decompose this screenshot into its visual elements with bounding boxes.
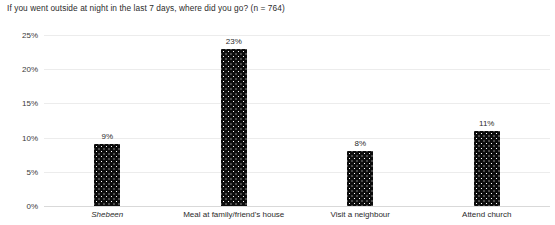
bar-group: 11% [424, 35, 551, 206]
bar-value-label: 9% [101, 132, 113, 141]
x-axis: ShebeenMeal at family/friend's houseVisi… [44, 208, 550, 224]
bar-group: 9% [44, 35, 171, 206]
x-axis-category-label: Meal at family/friend's house [183, 210, 284, 219]
bar[interactable] [94, 144, 120, 206]
bar-group: 23% [171, 35, 298, 206]
bars-layer: 9%23%8%11% [44, 35, 550, 206]
bar[interactable] [221, 49, 247, 206]
x-axis-category-label: Attend church [462, 210, 511, 219]
y-axis-tick-label: 20% [22, 65, 38, 74]
bar-value-label: 23% [226, 37, 242, 46]
x-axis-category-label: Visit a neighbour [331, 210, 390, 219]
bar[interactable] [347, 151, 373, 206]
y-axis-tick-label: 10% [22, 133, 38, 142]
x-axis-category-label: Shebeen [91, 210, 123, 219]
chart-title: If you went outside at night in the last… [7, 3, 285, 14]
bar-group: 8% [297, 35, 424, 206]
gridline [44, 206, 550, 207]
bar[interactable] [474, 131, 500, 206]
plot-area: 9%23%8%11% [44, 35, 550, 206]
y-axis-tick-label: 5% [26, 167, 38, 176]
bar-value-label: 8% [354, 139, 366, 148]
y-axis-tick-label: 25% [22, 31, 38, 40]
bar-chart: If you went outside at night in the last… [0, 0, 555, 225]
bar-value-label: 11% [479, 119, 494, 128]
y-axis: 0%5%10%15%20%25% [0, 35, 38, 206]
y-axis-tick-label: 15% [22, 99, 38, 108]
y-axis-tick-label: 0% [26, 202, 38, 211]
